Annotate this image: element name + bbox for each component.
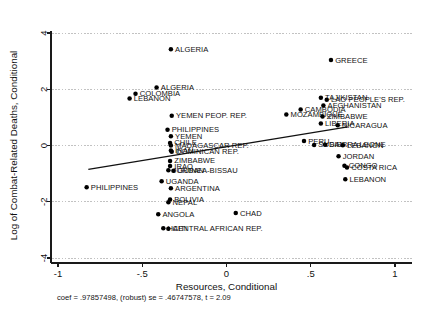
data-point-marker bbox=[166, 200, 171, 205]
data-point-marker bbox=[319, 121, 324, 126]
data-point-label: GREECE bbox=[335, 56, 367, 65]
data-point-label: CENTRAL AFRICAN REP. bbox=[173, 224, 263, 233]
data-point-marker bbox=[319, 95, 324, 100]
data-point-label: LEBANON bbox=[349, 175, 386, 184]
data-point-marker bbox=[159, 179, 164, 184]
x-axis-title: Resources, Conditional bbox=[176, 281, 277, 292]
data-point-label: LEBANON bbox=[134, 94, 171, 103]
data-point-label: YEMEN PEOP. REP. bbox=[176, 111, 247, 120]
data-point-marker bbox=[169, 134, 174, 139]
data-point-label: CHAD bbox=[240, 209, 262, 218]
data-point-marker bbox=[343, 177, 348, 182]
data-point-marker bbox=[166, 168, 171, 173]
data-point-label: DOMINICAN REP. bbox=[176, 147, 239, 156]
data-point-marker bbox=[302, 139, 307, 144]
data-point-marker bbox=[329, 58, 334, 63]
data-point-marker bbox=[169, 47, 174, 52]
data-point-marker bbox=[169, 149, 174, 154]
data-point-marker bbox=[156, 212, 161, 217]
data-point-label: COSTA RICA bbox=[351, 163, 398, 172]
y-axis-title: Log of Combat-Related Deaths, Conditiona… bbox=[8, 51, 19, 241]
x-tick-label-0: -1 bbox=[54, 268, 62, 279]
data-point-marker bbox=[171, 169, 176, 174]
data-point-marker bbox=[166, 227, 171, 232]
data-point-label: ALGERIA bbox=[175, 45, 209, 54]
x-tick-label-2: 0 bbox=[224, 268, 229, 279]
y-tick-label-0: 4 bbox=[38, 30, 49, 35]
y-tick-label-1: 2 bbox=[38, 87, 49, 92]
scatter-plot-canvas: ALGERIAGREECEALGERIACOLOMBIALEBANONTAJIK… bbox=[0, 0, 429, 328]
data-point-label: ARGENTINA bbox=[175, 184, 221, 193]
data-point-marker bbox=[345, 165, 350, 170]
data-point-marker bbox=[169, 143, 174, 148]
data-point-marker bbox=[84, 185, 89, 190]
data-point-marker bbox=[336, 154, 341, 159]
y-tick-label-4: -4 bbox=[38, 254, 49, 262]
data-point-marker bbox=[168, 159, 173, 164]
data-point-label: GUINEA-BISSAU bbox=[178, 166, 238, 175]
data-point-marker bbox=[127, 96, 132, 101]
data-point-marker bbox=[341, 143, 346, 148]
data-point-label: LEBANON bbox=[347, 141, 384, 150]
data-point-marker bbox=[284, 112, 289, 117]
data-point-label: NEPAL bbox=[173, 198, 198, 207]
x-tick-label-3: .5 bbox=[307, 268, 315, 279]
data-point-marker bbox=[312, 143, 317, 148]
data-points-layer: ALGERIAGREECEALGERIACOLOMBIALEBANONTAJIK… bbox=[84, 45, 404, 233]
y-tick-label-2: 0 bbox=[38, 143, 49, 148]
data-point-marker bbox=[165, 128, 170, 133]
data-point-label: JORDAN bbox=[343, 152, 375, 161]
data-point-marker bbox=[169, 186, 174, 191]
regression-stats-note: coef = .97857498, (robust) se = .4674757… bbox=[57, 293, 231, 302]
data-point-label: ANGOLA bbox=[162, 210, 195, 219]
regression-annotation: coef = .97857498, (robust) se = .4674757… bbox=[57, 293, 231, 302]
added-variable-plot-figure: ALGERIAGREECEALGERIACOLOMBIALEBANONTAJIK… bbox=[0, 0, 429, 328]
data-point-marker bbox=[234, 211, 239, 216]
x-tick-label-1: -.5 bbox=[137, 268, 148, 279]
y-tick-label-3: -2 bbox=[38, 198, 49, 206]
data-point-marker bbox=[161, 226, 166, 231]
x-tick-label-4: 1 bbox=[392, 268, 397, 279]
data-point-label: PHILIPPINES bbox=[91, 183, 138, 192]
data-point-marker bbox=[169, 113, 174, 118]
data-point-marker bbox=[335, 123, 340, 128]
data-point-label: NICARAGUA bbox=[342, 121, 388, 130]
